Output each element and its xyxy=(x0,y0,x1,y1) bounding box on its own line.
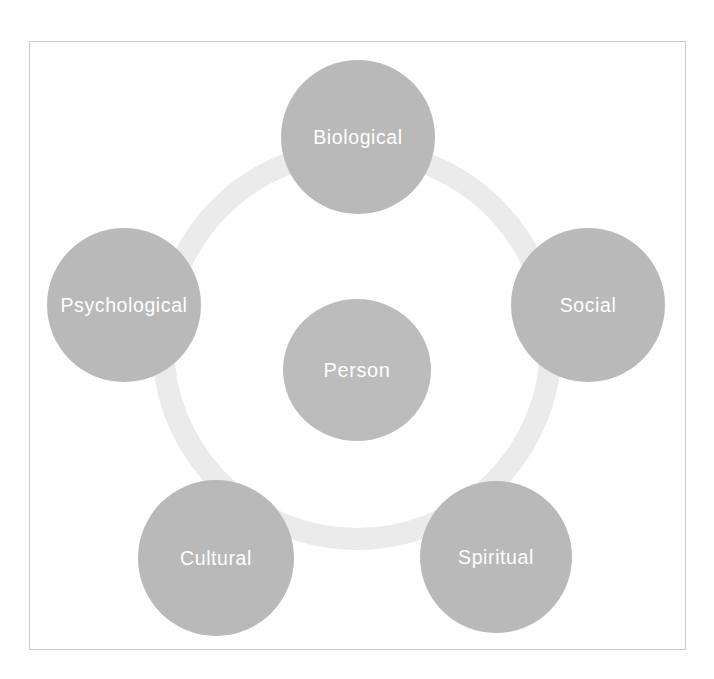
node-circle-social[interactable] xyxy=(511,228,665,382)
diagram-canvas xyxy=(0,0,714,679)
biopsychosocial-diagram: Biological Social Spiritual Cultural Psy… xyxy=(0,0,714,679)
node-circle-biological[interactable] xyxy=(281,60,435,214)
node-circle-spiritual[interactable] xyxy=(420,481,572,633)
node-circle-psychological[interactable] xyxy=(47,228,201,382)
node-circle-person[interactable] xyxy=(283,299,431,441)
node-circle-cultural[interactable] xyxy=(138,480,294,636)
